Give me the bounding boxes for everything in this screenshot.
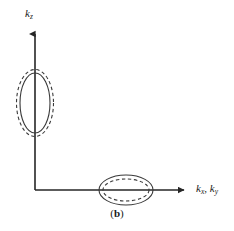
figure-caption: (b) bbox=[0, 208, 234, 219]
vertical-axis-label: kz bbox=[25, 8, 33, 19]
vertical-axis-subscript: z bbox=[30, 12, 33, 21]
horizontal-axis-label: kx, ky bbox=[196, 183, 218, 194]
horizontal-axis-symbol-2: k bbox=[210, 182, 215, 194]
diagram-canvas bbox=[0, 0, 234, 231]
horizontal-axis-subscript-2: y bbox=[215, 187, 218, 196]
caption-close-paren: ) bbox=[120, 207, 124, 219]
kspace-diagram-figure: kz kx, ky (b) bbox=[0, 0, 234, 231]
horizontal-axis-subscript-1: x bbox=[201, 187, 204, 196]
